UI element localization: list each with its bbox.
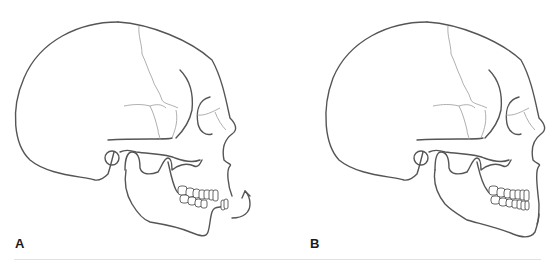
panel-label-b: B (310, 236, 319, 251)
skull-illustration-a (0, 0, 278, 250)
panel-a: A (0, 0, 278, 250)
rotation-arrow-icon (232, 191, 250, 218)
skull-illustration-b (277, 0, 555, 250)
caption-divider (14, 259, 541, 260)
panel-b: B (277, 0, 555, 250)
panel-label-a: A (15, 236, 24, 251)
